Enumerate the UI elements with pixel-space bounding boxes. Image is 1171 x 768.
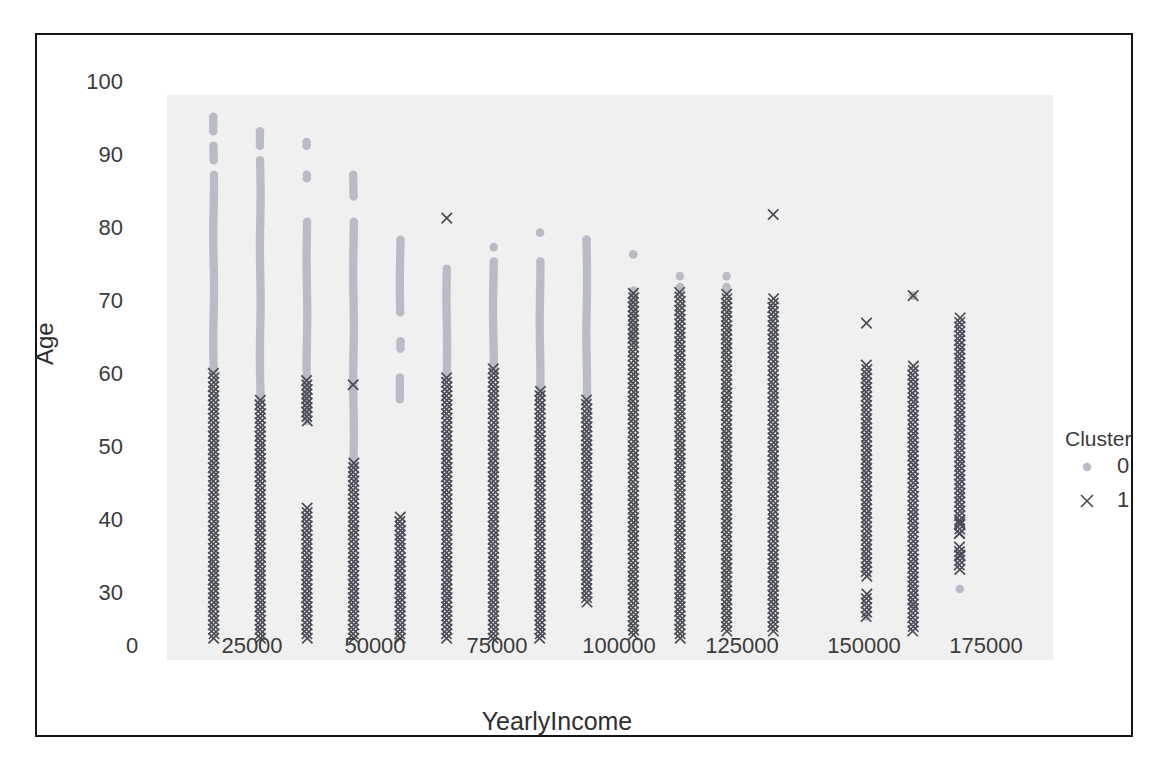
x-marker-icon — [1077, 491, 1097, 511]
chart-screenshot: 100 90 80 70 60 50 40 30 0 25000 50000 7… — [0, 0, 1171, 768]
x-tick-label: 100000 — [559, 635, 679, 657]
y-tick-label: 70 — [69, 290, 123, 312]
x-tick-label: 150000 — [804, 635, 924, 657]
y-tick-label: 80 — [69, 217, 123, 239]
x-tick-label: 50000 — [315, 635, 435, 657]
legend: Cluster 0 1 — [1065, 427, 1165, 519]
figure-frame: 100 90 80 70 60 50 40 30 0 25000 50000 7… — [35, 33, 1133, 737]
scatter-plot-canvas — [167, 95, 1053, 660]
legend-title: Cluster — [1065, 427, 1165, 451]
y-tick-label: 100 — [69, 71, 123, 93]
x-axis-title: YearlyIncome — [37, 707, 1077, 736]
y-axis-title: Age — [31, 322, 59, 365]
x-tick-label: 75000 — [437, 635, 557, 657]
legend-row-1[interactable]: 1 — [1065, 485, 1165, 519]
plot-panel — [167, 95, 1053, 660]
y-tick-label: 50 — [69, 436, 123, 458]
x-tick-label: 125000 — [682, 635, 802, 657]
x-tick-label: 0 — [72, 635, 192, 657]
y-tick-label: 30 — [69, 582, 123, 604]
y-tick-label: 40 — [69, 509, 123, 531]
legend-label: 1 — [1117, 487, 1129, 513]
x-tick-label: 175000 — [926, 635, 1046, 657]
legend-label: 0 — [1117, 453, 1129, 479]
x-tick-label: 25000 — [192, 635, 312, 657]
y-tick-label: 60 — [69, 363, 123, 385]
y-tick-label: 90 — [69, 144, 123, 166]
circle-marker-icon — [1077, 457, 1097, 477]
legend-row-0[interactable]: 0 — [1065, 451, 1165, 485]
